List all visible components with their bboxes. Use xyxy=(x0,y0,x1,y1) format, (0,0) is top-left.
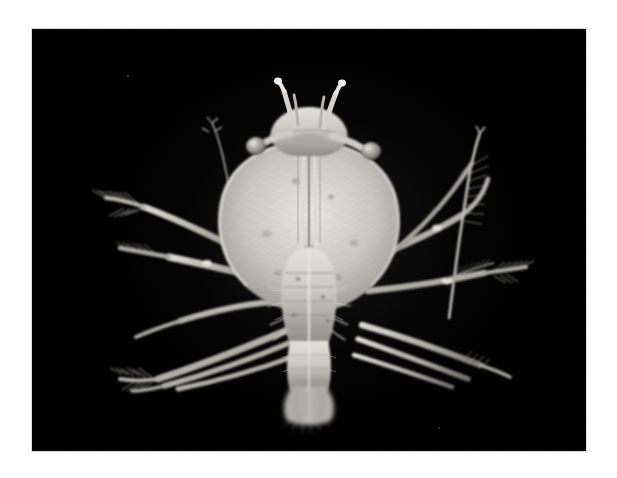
page-root xyxy=(0,0,617,478)
dust-speck xyxy=(127,75,129,77)
dust-speck xyxy=(438,427,440,429)
specimen-illustration xyxy=(32,29,586,451)
photo-dark-field xyxy=(32,29,586,451)
film-grain xyxy=(32,29,586,451)
photo-plate-frame xyxy=(32,29,586,451)
crustacean-specimen xyxy=(32,29,586,451)
